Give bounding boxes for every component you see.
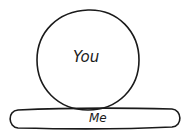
you-label: You: [73, 48, 99, 66]
me-label: Me: [89, 111, 107, 125]
